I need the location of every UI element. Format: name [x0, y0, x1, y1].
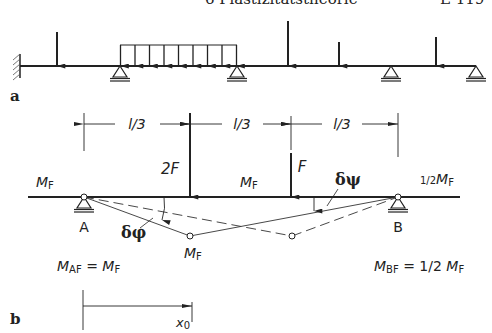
figure-a: a	[10, 21, 486, 105]
page-header: 6 Plastizitätstheorie E 119	[205, 0, 484, 8]
dimension-label: l/3	[128, 116, 146, 132]
equation-mbf: MBF = 1/2 MF	[374, 258, 464, 275]
figure-a-label: a	[10, 87, 20, 105]
support-icon	[227, 66, 247, 81]
dimension-label: l/3	[333, 116, 351, 132]
figure-b-label: b	[10, 310, 21, 328]
angle-psi-label: δψ	[335, 170, 361, 189]
plastic-hinge-icon	[289, 233, 295, 239]
support-icon	[466, 66, 486, 81]
figure-b: l/3 l/3 l/3 2F F MF MF 1/2MF δφ δψ	[10, 113, 464, 331]
plastic-hinge-icon	[187, 233, 193, 239]
x0-label: x0	[175, 315, 190, 331]
chapter-title: 6 Plastizitätstheorie	[205, 0, 358, 8]
angle-phi-label: δφ	[121, 223, 146, 242]
support-a-label: A	[79, 219, 89, 235]
beam-figure: 6 Plastizitätstheorie E 119	[0, 0, 492, 333]
hinge-moment-label: MF	[184, 245, 202, 262]
support-icon	[110, 66, 130, 81]
load-f-label: F	[298, 158, 307, 176]
dimension-line: l/3 l/3 l/3	[84, 113, 398, 157]
x0-axis: x0	[83, 290, 192, 331]
page-number: E 119	[440, 0, 484, 8]
moment-label-right: 1/2MF	[420, 171, 454, 188]
angle-phi-arc	[162, 197, 165, 220]
load-2f-label: 2F	[161, 160, 180, 178]
dimension-label: l/3	[233, 116, 251, 132]
equation-maf: MAF = MF	[57, 258, 120, 275]
moment-label-left: MF	[36, 174, 54, 191]
moment-label-middle: MF	[240, 174, 258, 191]
support-icon	[381, 66, 401, 81]
fixed-wall-icon	[13, 54, 20, 80]
support-b-label: B	[393, 219, 403, 235]
distributed-load-icon	[120, 45, 237, 66]
